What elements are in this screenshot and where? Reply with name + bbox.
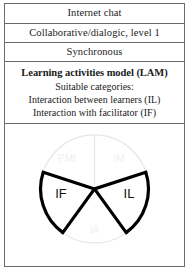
pie-label-pmi: PMI xyxy=(58,153,76,164)
lam-item-il: Interaction between learners (IL) xyxy=(8,93,181,106)
pie-wedge-il xyxy=(95,172,149,232)
learning-activity-card: Internet chat Collaborative/dialogic, le… xyxy=(0,0,189,271)
pie-label-ia: IA xyxy=(90,224,100,235)
row-label-internet-chat: Internet chat xyxy=(67,7,121,19)
lam-pie-svg: PMI IM IA IF IL xyxy=(5,124,184,266)
lam-diagram: PMI IM IA IF IL xyxy=(5,124,184,266)
table-row-collaboration-level: Collaborative/dialogic, level 1 xyxy=(5,24,184,43)
lam-item-if: Interaction with facilitator (IF) xyxy=(8,106,181,119)
pie-label-if: IF xyxy=(55,187,67,202)
table-row-internet-chat: Internet chat xyxy=(5,4,184,24)
pie-wedge-if xyxy=(41,172,95,232)
lam-title: Learning activities model (LAM) xyxy=(8,66,181,80)
pie-label-il: IL xyxy=(124,187,135,202)
row-label-synchronicity: Synchronous xyxy=(67,46,123,58)
pie-label-im: IM xyxy=(113,153,124,164)
table-row-synchronicity: Synchronous xyxy=(5,43,184,62)
card-frame: Internet chat Collaborative/dialogic, le… xyxy=(4,3,185,267)
row-label-collaboration-level: Collaborative/dialogic, level 1 xyxy=(29,27,160,39)
lam-subtitle: Suitable categories: xyxy=(8,80,181,93)
lam-block: Learning activities model (LAM) Suitable… xyxy=(5,62,184,124)
